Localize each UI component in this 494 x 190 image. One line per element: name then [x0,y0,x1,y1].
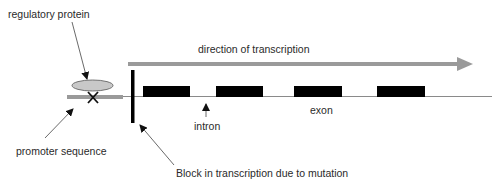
exon-3 [294,86,342,97]
direction-label: direction of transcription [198,44,309,55]
block-pointer [140,125,174,165]
promoter-label: promoter sequence [16,146,106,157]
mutation-block-bar [131,70,135,123]
transcription-direction-arrow [128,57,473,71]
regulatory-protein-label: regulatory protein [8,9,90,20]
exon-label: exon [310,105,333,116]
intron-label: intron [194,121,220,132]
regulatory-protein-pointer [72,22,87,79]
exon-2 [216,86,263,97]
block-label: Block in transcription due to mutation [176,168,348,179]
gene-diagram [0,0,494,190]
regulatory-protein-shape [72,80,113,91]
exons [143,86,425,97]
exon-4 [377,86,425,97]
promoter-pointer [45,109,73,138]
exon-1 [143,86,190,97]
